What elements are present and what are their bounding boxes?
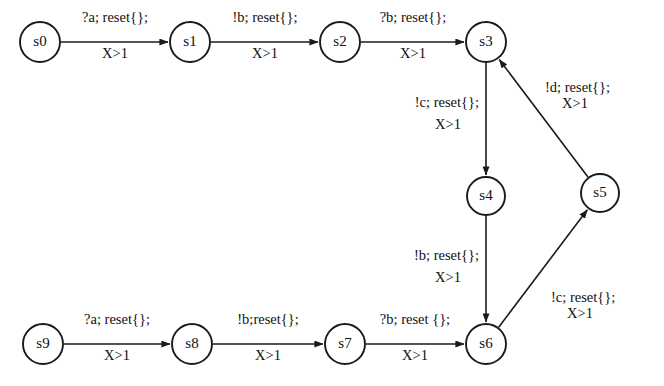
transition-guard-s8-s7: X>1 (255, 347, 281, 363)
transition-action-s0-s1: ?a; reset{}; (82, 9, 148, 25)
transition-label-s6-s5: !c; reset{};X>1 (551, 289, 615, 321)
transition-label-s2-s3: ?b; reset{};X>1 (380, 9, 447, 61)
transition-label-s0-s1: ?a; reset{};X>1 (82, 9, 148, 61)
state-label-s4: s4 (479, 187, 493, 203)
transition-action-s9-s8: ?a; reset{}; (84, 311, 150, 327)
transition-label-s5-s3: !d; reset{};X>1 (545, 79, 610, 111)
state-label-s0: s0 (33, 33, 46, 49)
transition-label-s4-s6: !b; reset{};X>1 (414, 247, 479, 285)
transition-guard-s9-s8: X>1 (104, 347, 130, 363)
transition-label-s3-s4: !c; reset{};X>1 (415, 94, 479, 132)
transition-guard-s7-s6: X>1 (402, 347, 428, 363)
state-node-s5[interactable]: s5 (581, 174, 619, 212)
state-label-s6: s6 (479, 335, 493, 351)
transition-action-s8-s7: !b;reset{}; (237, 311, 298, 327)
edge-labels-layer: ?a; reset{};X>1!b; reset{};X>1?b; reset{… (82, 9, 615, 363)
transition-label-s9-s8: ?a; reset{};X>1 (84, 311, 150, 363)
transition-action-s1-s2: !b; reset{}; (232, 9, 297, 25)
state-node-s4[interactable]: s4 (467, 177, 505, 215)
state-diagram-canvas: s0s1s2s3s4s5s6s7s8s9 ?a; reset{};X>1!b; … (0, 0, 664, 386)
edges-layer (61, 42, 588, 344)
transition-action-s3-s4: !c; reset{}; (415, 94, 479, 110)
transition-guard-s4-s6: X>1 (435, 269, 461, 285)
state-label-s3: s3 (479, 33, 492, 49)
state-label-s9: s9 (36, 335, 49, 351)
transition-action-s5-s3: !d; reset{}; (545, 79, 610, 95)
automaton-graph: s0s1s2s3s4s5s6s7s8s9 ?a; reset{};X>1!b; … (0, 0, 664, 386)
state-node-s3[interactable]: s3 (466, 22, 506, 62)
state-node-s1[interactable]: s1 (170, 22, 210, 62)
state-label-s2: s2 (333, 33, 346, 49)
transition-action-s4-s6: !b; reset{}; (414, 247, 479, 263)
transition-guard-s3-s4: X>1 (435, 116, 461, 132)
transition-guard-s0-s1: X>1 (102, 45, 128, 61)
state-label-s7: s7 (338, 335, 352, 351)
state-label-s1: s1 (183, 33, 196, 49)
transition-guard-s5-s3: X>1 (562, 95, 588, 111)
transition-edge-s5-s3 (499, 60, 588, 177)
transition-action-s2-s3: ?b; reset{}; (380, 9, 447, 25)
state-node-s6[interactable]: s6 (466, 324, 506, 364)
state-node-s8[interactable]: s8 (172, 324, 212, 364)
state-label-s5: s5 (593, 184, 606, 200)
state-label-s8: s8 (185, 335, 198, 351)
transition-label-s8-s7: !b;reset{};X>1 (237, 311, 298, 363)
state-node-s2[interactable]: s2 (320, 22, 360, 62)
transition-action-s7-s6: ?b; reset {}; (380, 311, 450, 327)
transition-guard-s1-s2: X>1 (252, 45, 278, 61)
state-node-s7[interactable]: s7 (325, 324, 365, 364)
transition-label-s7-s6: ?b; reset {};X>1 (380, 311, 450, 363)
transition-label-s1-s2: !b; reset{};X>1 (232, 9, 297, 61)
transition-action-s6-s5: !c; reset{}; (551, 289, 615, 305)
state-node-s9[interactable]: s9 (23, 324, 63, 364)
state-node-s0[interactable]: s0 (20, 22, 60, 62)
transition-guard-s6-s5: X>1 (567, 305, 593, 321)
transition-guard-s2-s3: X>1 (400, 45, 426, 61)
